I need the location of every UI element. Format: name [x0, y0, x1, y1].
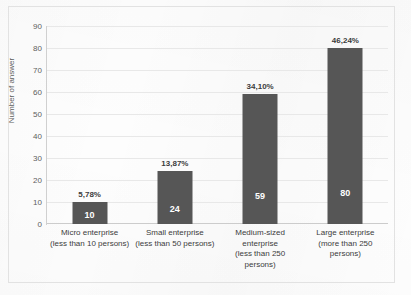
bar-slot-micro-enterprise: 5,78% 10 — [47, 26, 132, 224]
bar-small-enterprise[interactable]: 24 — [157, 171, 192, 224]
x-label-line: Small enterprise — [132, 228, 217, 239]
bar-value-label-3: 59 — [243, 191, 278, 201]
x-label-line: enterprise — [218, 239, 303, 250]
y-tick-90: 90 — [20, 22, 42, 31]
bar-medium-sized-enterprise[interactable]: 59 — [243, 94, 278, 224]
x-label-line: Large enterprise — [303, 228, 388, 239]
x-label-large-enterprise: Large enterprise (more than 250 persons) — [303, 228, 388, 260]
bar-percent-label-3: 34,10% — [247, 82, 274, 91]
y-tick-60: 60 — [20, 88, 42, 97]
y-tick-80: 80 — [20, 44, 42, 53]
x-label-line: persons) — [218, 260, 303, 271]
y-tick-10: 10 — [20, 198, 42, 207]
bar-value-label-1: 10 — [72, 210, 107, 220]
x-label-line: (less than 50 persons) — [132, 239, 217, 250]
bar-value-label-2: 24 — [157, 204, 192, 214]
x-label-small-enterprise: Small enterprise (less than 50 persons) — [132, 228, 217, 249]
bar-percent-label-4: 46,24% — [332, 36, 359, 45]
bar-slot-medium-sized-enterprise: 34,10% 59 — [218, 26, 303, 224]
bar-large-enterprise[interactable]: 80 — [328, 48, 363, 224]
y-tick-20: 20 — [20, 176, 42, 185]
x-label-line: Medium-sized — [218, 228, 303, 239]
x-label-line: persons) — [303, 249, 388, 260]
x-axis-category-labels: Micro enterprise (less than 10 persons) … — [47, 228, 388, 284]
bar-percent-label-1: 5,78% — [78, 190, 101, 199]
bar-slot-large-enterprise: 46,24% 80 — [303, 26, 388, 224]
y-tick-30: 30 — [20, 154, 42, 163]
bar-percent-label-2: 13,87% — [161, 159, 188, 168]
bar-chart: Number of answer 90 80 70 60 50 40 30 20… — [0, 0, 411, 295]
x-label-line: (less than 250 — [218, 249, 303, 260]
x-label-line: (more than 250 — [303, 239, 388, 250]
y-tick-0: 0 — [20, 220, 42, 229]
x-label-line: (less than 10 persons) — [47, 239, 132, 250]
bar-slot-small-enterprise: 13,87% 24 — [132, 26, 217, 224]
x-label-micro-enterprise: Micro enterprise (less than 10 persons) — [47, 228, 132, 249]
y-tick-50: 50 — [20, 110, 42, 119]
x-label-line: Micro enterprise — [47, 228, 132, 239]
x-label-medium-sized-enterprise: Medium-sized enterprise (less than 250 p… — [218, 228, 303, 270]
y-tick-40: 40 — [20, 132, 42, 141]
y-axis-tick-labels: 90 80 70 60 50 40 30 20 10 0 — [14, 26, 42, 224]
y-tick-70: 70 — [20, 66, 42, 75]
bar-value-label-4: 80 — [328, 188, 363, 198]
plot-area: 5,78% 10 13,87% 24 34,10% 59 46,24% 80 — [47, 26, 388, 224]
bar-micro-enterprise[interactable]: 10 — [72, 202, 107, 224]
